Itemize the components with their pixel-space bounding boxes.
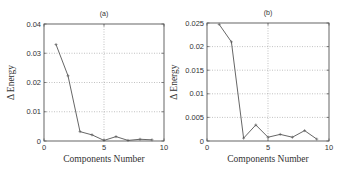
y-tick-label: 0 xyxy=(37,137,41,146)
panel-title: (b) xyxy=(264,9,273,17)
tick-labels: 00.010.020.030.040510 xyxy=(26,20,168,153)
x-tick-label: 0 xyxy=(205,143,209,152)
y-tick-label: 0.025 xyxy=(185,19,204,28)
y-axis-label: Δ Energy xyxy=(169,64,179,99)
x-axis-label: Components Number xyxy=(63,154,145,164)
figure: (a) Components Number Δ Energy 00.010.02… xyxy=(0,0,344,173)
x-tick-label: 10 xyxy=(160,143,168,152)
panel-title: (a) xyxy=(100,10,109,18)
y-tick-label: 0.04 xyxy=(26,20,41,29)
gridlines xyxy=(207,23,329,141)
y-tick-label: 0.01 xyxy=(189,89,204,98)
y-tick-label: 0.03 xyxy=(26,49,41,58)
y-tick-label: 0.02 xyxy=(189,42,204,51)
y-axis-label: Δ Energy xyxy=(6,65,16,100)
y-tick-label: 0.01 xyxy=(26,107,41,116)
chart-canvas: (a) Components Number Δ Energy 00.010.02… xyxy=(0,0,344,173)
panel-a: (a) Components Number Δ Energy 00.010.02… xyxy=(6,10,168,164)
y-tick-label: 0 xyxy=(200,137,204,146)
x-axis-label: Components Number xyxy=(227,154,309,164)
x-tick-label: 5 xyxy=(102,143,106,152)
x-tick-label: 0 xyxy=(42,143,46,152)
energy-series-line xyxy=(219,24,317,139)
y-tick-label: 0.005 xyxy=(185,113,204,122)
y-tick-label: 0.015 xyxy=(185,66,204,75)
y-tick-label: 0.02 xyxy=(26,78,41,87)
gridlines xyxy=(44,24,164,141)
panel-b: (b) Components Number Δ Energy 00.0050.0… xyxy=(169,9,333,164)
x-tick-label: 10 xyxy=(325,143,333,152)
x-tick-label: 5 xyxy=(266,143,270,152)
